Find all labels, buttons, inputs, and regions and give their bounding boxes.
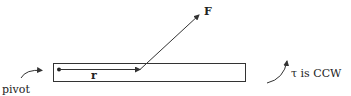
lever-bar — [54, 64, 246, 82]
pivot-pointer-arrow — [21, 70, 42, 78]
torque-label: τ is CCW — [291, 67, 342, 80]
torque-diagram: r F pivot τ is CCW — [0, 0, 351, 96]
ccw-rotation-icon — [267, 61, 287, 83]
force-label: F — [204, 5, 212, 18]
r-label: r — [91, 69, 97, 82]
pivot-label: pivot — [2, 83, 30, 96]
force-vector — [140, 15, 199, 70]
